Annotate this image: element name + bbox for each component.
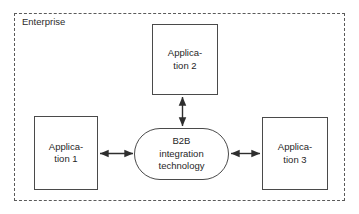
node-application-3[interactable]: Applica- tion 3 bbox=[262, 117, 328, 190]
node-application-1[interactable]: Applica- tion 1 bbox=[34, 116, 98, 190]
diagram-canvas: Enterprise Applica- tion 1 Applica- tion… bbox=[0, 0, 359, 214]
enterprise-label: Enterprise bbox=[22, 16, 65, 28]
node-application-2-label: Applica- tion 2 bbox=[168, 47, 202, 72]
node-application-2[interactable]: Applica- tion 2 bbox=[152, 24, 218, 95]
node-application-3-label: Applica- tion 3 bbox=[278, 141, 312, 166]
node-b2b-integration-technology-label: B2B integration technology bbox=[159, 135, 205, 173]
node-application-1-label: Applica- tion 1 bbox=[49, 141, 83, 166]
node-b2b-integration-technology[interactable]: B2B integration technology bbox=[134, 128, 229, 180]
